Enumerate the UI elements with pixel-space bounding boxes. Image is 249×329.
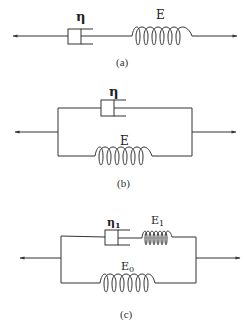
viscoelastic-models-diagram: η E (a) η E (b) η1 E1 E0 (c)	[0, 0, 249, 329]
dashpot-c	[105, 230, 142, 245]
spring-b	[95, 147, 152, 165]
eta1-label: η1	[107, 216, 121, 230]
spring-e0	[100, 274, 155, 292]
eta-label-b: η	[109, 84, 118, 99]
caption-a: (a)	[116, 56, 129, 69]
eta-label-a: η	[76, 9, 85, 24]
dashpot-b	[101, 100, 192, 116]
dashpot-a	[68, 29, 132, 44]
e1-label: E1	[151, 214, 164, 228]
caption-b: (b)	[117, 177, 130, 190]
spring-a	[132, 27, 192, 45]
diagram-a	[13, 27, 237, 45]
diagram-b	[15, 100, 236, 165]
e-label-b: E	[120, 134, 129, 148]
spring-e1	[142, 231, 172, 245]
e0-label: E0	[121, 260, 134, 274]
diagram-c	[20, 230, 240, 292]
caption-c: (c)	[120, 308, 133, 321]
e-label-a: E	[156, 8, 165, 22]
